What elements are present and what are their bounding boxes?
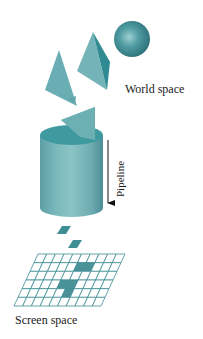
falling-fragments	[57, 226, 82, 248]
sphere-shape	[114, 21, 150, 57]
pipeline-arrow: Pipeline	[108, 140, 126, 203]
world-space-label: World space	[125, 82, 184, 96]
cylinder-shape	[40, 107, 103, 217]
screen-space-label: Screen space	[15, 313, 77, 327]
rendering-pipeline-figure: Pipeline World space Screen space	[0, 0, 203, 339]
screen-space-pixel-grid	[14, 254, 125, 306]
pipeline-label: Pipeline	[114, 161, 126, 197]
tetrahedron-shape	[77, 32, 110, 90]
fragment-shape	[57, 226, 71, 234]
world-space-objects	[45, 21, 150, 140]
fragment-shape	[68, 240, 82, 248]
